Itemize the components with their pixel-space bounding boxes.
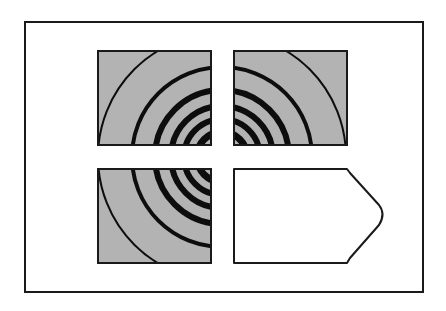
tile-bottom-right-blank-shape <box>234 169 383 263</box>
figure-canvas <box>0 0 446 311</box>
outer-frame <box>25 22 423 292</box>
